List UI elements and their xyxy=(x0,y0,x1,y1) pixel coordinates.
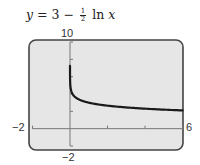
screen-frame xyxy=(29,40,183,150)
graph-screen xyxy=(0,0,200,165)
